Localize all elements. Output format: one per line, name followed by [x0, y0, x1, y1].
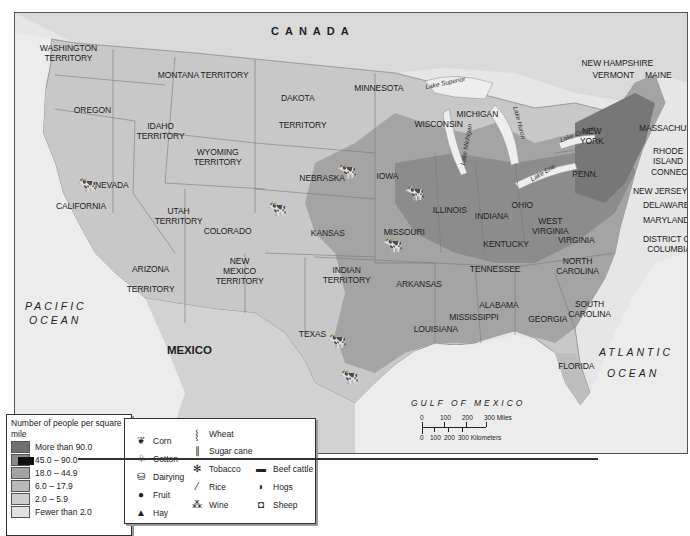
water-label-gulf: GULF OF MEXICO: [411, 398, 525, 408]
product-legend-item: ◗Hogs: [253, 481, 293, 492]
legend-label: 6.0 – 17.9: [35, 481, 73, 491]
wine-icon: ⁂: [189, 499, 205, 510]
scale-km-200: 200: [444, 434, 455, 441]
region-label-vermont: VERMONT: [592, 70, 634, 80]
legend-row: 6.0 – 17.9: [7, 479, 131, 492]
products-legend: ❦Corn♧Cotton⛁Dairying●Fruit▲Hay⸾Wheat∥Su…: [124, 418, 316, 524]
region-label-wyoming: WYOMING TERRITORY: [194, 147, 242, 167]
legend-swatch: [11, 441, 30, 453]
legend-label: Fewer than 2.0: [35, 507, 92, 517]
country-label-canada: CANADA: [271, 26, 355, 36]
legend-swatch: [11, 493, 30, 505]
region-label-new_hampshire: NEW HAMPSHIRE: [582, 58, 653, 68]
region-label-utah: UTAH TERRITORY: [155, 206, 203, 226]
region-label-north_carolina: NORTH CAROLINA: [556, 256, 599, 276]
legend-label: 2.0 – 5.9: [35, 494, 68, 504]
product-legend-label: Corn: [153, 436, 171, 446]
region-label-arizona: ARIZONA TERRITORY: [127, 264, 175, 294]
region-label-iowa: IOWA: [376, 171, 398, 181]
rice-icon: ⁄: [189, 481, 205, 492]
beef-cattle-icon: 🐄: [405, 183, 425, 202]
ocean-label-pacific-2: OCEAN: [29, 315, 81, 325]
product-legend-label: Rice: [209, 482, 226, 492]
side-label-rhode_island: RHODE ISLAND: [653, 146, 683, 166]
product-legend-label: Fruit: [153, 490, 170, 500]
region-label-colorado: COLORADO: [204, 226, 252, 236]
sheep-icon: ◘: [253, 499, 269, 510]
region-label-ohio: OHIO: [512, 200, 533, 210]
region-label-oregon: OREGON: [74, 105, 111, 115]
region-label-indiana: INDIANA: [475, 211, 509, 221]
product-legend-item: ⛁Dairying: [133, 471, 184, 482]
product-legend-label: Tobacco: [209, 464, 241, 474]
region-label-florida: FLORIDA: [558, 361, 594, 371]
product-legend-label: Hogs: [273, 482, 293, 492]
region-label-maine: MAINE: [645, 70, 671, 80]
legend-row: 2.0 – 5.9: [7, 492, 131, 505]
scale-miles-0: 0: [420, 414, 424, 421]
legend-label: 18.0 – 44.9: [35, 468, 78, 478]
scale-miles-300: 300 Miles: [484, 414, 512, 421]
product-legend-item: ⸾Wheat: [189, 427, 234, 441]
dairying-icon: ⛁: [133, 471, 149, 482]
region-label-georgia: GEORGIA: [528, 314, 567, 324]
region-label-kentucky: KENTUCKY: [483, 239, 528, 249]
ocean-label-pacific-1: PACIFIC: [25, 301, 87, 311]
region-label-wisconsin: WISCONSIN: [415, 119, 463, 129]
beef-cattle-icon: 🐄: [383, 235, 403, 254]
product-legend-label: Sheep: [273, 500, 298, 510]
product-legend-item: ❦Corn: [133, 435, 171, 446]
region-label-mississippi: MISSISSIPPI: [449, 312, 498, 322]
region-label-louisiana: LOUISIANA: [414, 324, 458, 334]
map-frame: CANADA MEXICO PACIFIC OCEAN ATLANTIC OCE…: [14, 12, 688, 454]
product-legend-label: Wine: [209, 500, 228, 510]
legend-swatch: [11, 480, 30, 492]
product-legend-item: ∥Sugar cane: [189, 445, 252, 456]
scale-miles-100: 100: [440, 414, 451, 421]
map-terrain: [15, 13, 687, 453]
side-label-maryland: MARYLAND: [643, 215, 688, 225]
region-label-montana: MONTANA TERRITORY: [158, 70, 249, 80]
scale-bar: 0 100 200 300 Miles 0 100 200 300 Kilome…: [420, 414, 520, 448]
region-label-west_virginia: WEST VIRGINIA: [532, 216, 569, 236]
legend-swatch: [11, 467, 30, 479]
beef-cattle-icon: 🐄: [267, 199, 287, 218]
region-label-kansas: KANSAS: [311, 228, 345, 238]
ocean-label-atlantic-1: ATLANTIC: [599, 347, 673, 357]
population-density-legend: Number of people per square mile More th…: [6, 414, 132, 536]
region-label-indian: INDIAN TERRITORY: [323, 265, 371, 285]
region-label-michigan: MICHIGAN: [456, 109, 498, 119]
region-label-minnesota: MINNESOTA: [354, 83, 403, 93]
product-legend-label: Dairying: [153, 472, 184, 482]
region-label-new_mexico: NEW MEXICO TERRITORY: [216, 256, 264, 286]
beef-cattle-icon: 🐄: [339, 367, 359, 386]
scale-km-300: 300 Kilometers: [458, 434, 501, 441]
region-label-california: CALIFORNIA: [56, 201, 106, 211]
region-label-idaho: IDAHO TERRITORY: [137, 121, 185, 141]
product-legend-item: ▲Hay: [133, 507, 168, 518]
side-label-delaware: DELAWARE: [643, 200, 688, 210]
fruit-icon: ●: [133, 489, 149, 500]
product-legend-label: Sugar cane: [209, 446, 252, 456]
side-label-massachusetts: MASSACHUSETTS: [639, 123, 688, 133]
region-label-virginia: VIRGINIA: [558, 235, 595, 245]
legend-title: Number of people per square mile: [7, 415, 131, 440]
sugar-cane-icon: ∥: [189, 445, 205, 456]
corn-icon: ❦: [133, 435, 149, 446]
wheat-icon: ⸾: [189, 427, 205, 441]
region-label-nevada: NEVADA: [95, 180, 129, 190]
scale-miles-200: 200: [462, 414, 473, 421]
region-label-south_carolina: SOUTH CAROLINA: [568, 299, 611, 319]
legend-row: More than 90.0: [7, 440, 131, 453]
ocean-label-atlantic-2: OCEAN: [607, 368, 659, 378]
region-label-texas: TEXAS: [299, 329, 326, 339]
side-label-new_jersey: NEW JERSEY: [633, 186, 687, 196]
region-label-penn: PENN.: [572, 169, 597, 179]
legend-row: 18.0 – 44.9: [7, 466, 131, 479]
product-legend-item: ◘Sheep: [253, 499, 298, 510]
scale-km-0: 0: [420, 434, 424, 441]
side-label-dc: DISTRICT OF COLUMBIA: [643, 234, 688, 254]
region-label-dakota: DAKOTA: [281, 93, 315, 103]
region-label-arkansas: ARKANSAS: [396, 279, 442, 289]
legend-row: Fewer than 2.0: [7, 505, 131, 518]
